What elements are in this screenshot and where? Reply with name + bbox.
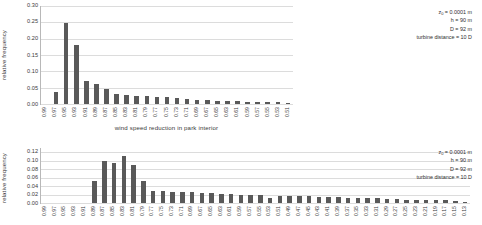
- annotation-roughness-bottom: z0 = 0.0001 m: [352, 148, 472, 156]
- x-tick: 0.93: [70, 106, 80, 122]
- bar-cell: [158, 148, 168, 203]
- bar-cell: [232, 6, 242, 104]
- x-tick: 0.89: [89, 205, 99, 221]
- x-tick-label: 0.89: [93, 107, 98, 117]
- bar-cell: [178, 148, 188, 203]
- x-tick: 0.49: [284, 205, 294, 221]
- annotation-roughness-top: z0 = 0.0001 m: [352, 8, 472, 16]
- x-tick-label: 0.37: [345, 206, 350, 216]
- bar: [278, 196, 282, 203]
- bar: [307, 196, 311, 203]
- x-tick: 0.71: [177, 205, 187, 221]
- x-tick: 0.51: [283, 106, 293, 122]
- bar: [161, 191, 165, 203]
- x-tick-label: 0.55: [257, 206, 262, 216]
- x-tick-label: 0.13: [462, 206, 467, 216]
- bar: [205, 100, 210, 104]
- x-axis-title-top: wind speed reduction in park interior: [40, 124, 293, 131]
- x-tick: 0.95: [60, 205, 70, 221]
- y-tick-label: 0.25: [12, 20, 38, 26]
- y-tick-label: 0.08: [12, 167, 38, 173]
- x-tick: 0.15: [450, 205, 460, 221]
- bar-cell: [217, 148, 227, 203]
- x-tick-label: 0.91: [81, 206, 86, 216]
- x-tick: 0.83: [121, 106, 131, 122]
- x-tick-label: 0.95: [63, 107, 68, 117]
- bar-cell: [304, 148, 314, 203]
- bar-cell: [41, 6, 51, 104]
- x-tick: 0.19: [431, 205, 441, 221]
- plot-area-top: [40, 6, 293, 105]
- x-tick: 0.41: [323, 205, 333, 221]
- x-tick: 0.55: [263, 106, 273, 122]
- x-tick: 0.81: [131, 106, 141, 122]
- x-tick: 0.95: [60, 106, 70, 122]
- x-tick-label: 0.61: [228, 206, 233, 216]
- x-tick: 0.65: [212, 106, 222, 122]
- bar-cell: [256, 148, 266, 203]
- x-tick: 0.85: [111, 106, 121, 122]
- bar: [64, 23, 69, 104]
- bar: [453, 201, 457, 203]
- x-axis-ticks-bottom: 0.990.970.950.930.910.890.870.850.830.81…: [40, 205, 470, 221]
- bar: [104, 89, 109, 104]
- bar: [170, 192, 174, 203]
- x-tick-label: 0.47: [296, 206, 301, 216]
- bar-cell: [182, 6, 192, 104]
- bar-cell: [70, 148, 80, 203]
- x-tick-label: 0.41: [325, 206, 330, 216]
- x-tick: 0.65: [206, 205, 216, 221]
- x-tick: 0.25: [401, 205, 411, 221]
- bar-cell: [51, 148, 61, 203]
- x-tick: 0.75: [157, 205, 167, 221]
- bar: [185, 99, 190, 104]
- bar-cell: [51, 6, 61, 104]
- x-tick: 0.31: [372, 205, 382, 221]
- bar: [265, 102, 270, 104]
- bar: [225, 101, 230, 104]
- x-tick: 0.83: [118, 205, 128, 221]
- x-tick: 0.67: [196, 205, 206, 221]
- x-tick-label: 0.59: [245, 107, 250, 117]
- x-tick-label: 0.79: [144, 107, 149, 117]
- x-tick-label: 0.85: [113, 107, 118, 117]
- chart-page: relative frequency 0.300.250.200.150.100…: [0, 0, 482, 225]
- bar: [74, 45, 79, 104]
- x-tick-label: 0.65: [215, 107, 220, 117]
- x-tick-label: 0.79: [140, 206, 145, 216]
- x-tick: 0.51: [274, 205, 284, 221]
- x-tick: 0.91: [79, 205, 89, 221]
- bar-cell: [222, 6, 232, 104]
- gridline: [41, 203, 470, 204]
- x-tick: 0.75: [162, 106, 172, 122]
- x-axis-title-bottom: power efficiency in park interior: [40, 223, 470, 225]
- x-tick: 0.47: [294, 205, 304, 221]
- x-tick-label: 0.65: [208, 206, 213, 216]
- bar: [414, 200, 418, 203]
- bar-cell: [253, 6, 263, 104]
- bar-cell: [152, 6, 162, 104]
- bar: [404, 200, 408, 203]
- bar: [175, 98, 180, 104]
- x-tick-label: 0.93: [72, 206, 77, 216]
- x-tick-label: 0.95: [62, 206, 67, 216]
- bar: [195, 100, 200, 104]
- bar-cell: [265, 148, 275, 203]
- bar-cell: [162, 6, 172, 104]
- chart-wind-speed-reduction: relative frequency 0.300.250.200.150.100…: [0, 0, 482, 136]
- bar: [297, 196, 301, 203]
- bar-cell: [334, 148, 344, 203]
- bar-cell: [236, 148, 246, 203]
- y-axis-title-top: relative frequency: [0, 10, 7, 100]
- y-axis-title-bottom: relative frequency: [0, 145, 7, 211]
- x-tick-label: 0.49: [286, 206, 291, 216]
- y-tick-label: 0.30: [12, 3, 38, 9]
- x-tick-label: 0.83: [120, 206, 125, 216]
- bar: [356, 198, 360, 204]
- x-tick-label: 0.67: [204, 107, 209, 117]
- bar: [255, 102, 260, 104]
- y-tick-label: 0.00: [12, 102, 38, 108]
- y-tick-label: 0.10: [12, 158, 38, 164]
- bar: [395, 199, 399, 203]
- x-tick-label: 0.75: [159, 206, 164, 216]
